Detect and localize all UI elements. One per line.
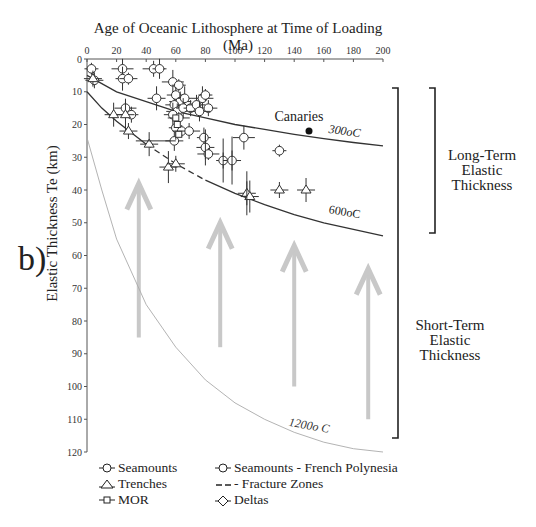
y-tick-label: 30	[72, 152, 82, 163]
axes: 0204060801001201401601802000102030405060…	[67, 45, 391, 458]
canaries-label: Canaries	[275, 109, 324, 124]
isotherm-1200-label: 1200o C	[288, 415, 332, 436]
long-term-label: Long-Term Elastic Thickness	[432, 148, 532, 193]
y-tick-label: 110	[67, 414, 82, 425]
mor-marker	[174, 122, 180, 128]
seamount-marker	[201, 91, 210, 100]
legend-col-1: Seamounts Trenches MOR	[98, 460, 177, 508]
isotherm-600-label: 600oC	[328, 202, 362, 221]
trench-marker	[301, 185, 311, 193]
y-tick-label: 90	[72, 348, 82, 359]
seamount-marker	[87, 65, 96, 74]
seamount-marker	[185, 127, 194, 136]
y-tick-label: 100	[67, 381, 82, 392]
legend-item-deltas: Deltas	[214, 492, 398, 508]
annotations: Canaries300oC600oC1200o C	[275, 109, 363, 436]
circle-marker-icon	[98, 462, 116, 474]
triangle-marker-icon	[98, 478, 116, 490]
seamount-marker	[152, 94, 161, 103]
isotherm-300-label: 300oC	[327, 122, 363, 141]
circle-marker-icon	[214, 462, 232, 474]
seamount-marker	[155, 65, 164, 74]
y-tick-label: 20	[72, 119, 82, 130]
long-term-line1: Long-Term	[432, 148, 532, 163]
seamount-marker	[124, 74, 133, 83]
short-term-bracket	[392, 88, 398, 438]
y-tick-label: 40	[72, 185, 82, 196]
seamount-marker	[195, 107, 204, 116]
legend-item-french-polynesia: Seamounts - French Polynesia	[214, 460, 398, 476]
y-tick-label: 0	[77, 54, 82, 65]
seamount-marker	[275, 146, 284, 155]
legend-item-fracture-zones: - Fracture Zones	[214, 476, 398, 492]
short-term-line1: Short-Term	[400, 318, 500, 333]
legend-label: Trenches	[118, 476, 167, 492]
short-term-line2: Elastic	[400, 333, 500, 348]
short-term-label: Short-Term Elastic Thickness	[400, 318, 500, 363]
mor-marker	[176, 131, 182, 137]
chart-canvas: 0204060801001201401601802000102030405060…	[0, 0, 536, 527]
legend-item-trenches: Trenches	[98, 476, 177, 492]
data-points	[84, 59, 315, 215]
legend-col-2: Seamounts - French Polynesia - Fracture …	[214, 460, 398, 508]
square-marker-icon	[98, 494, 116, 506]
y-tick-label: 80	[72, 316, 82, 327]
y-axis-label: Elastic Thickness Te (km)	[44, 124, 61, 324]
long-term-line3: Thickness	[432, 178, 532, 193]
y-tick-label: 70	[72, 283, 82, 294]
legend-item-mor: MOR	[98, 492, 177, 508]
panel-label: b)	[18, 240, 46, 278]
mor-marker	[173, 115, 179, 121]
y-tick-label: 60	[72, 250, 82, 261]
legend-item-seamounts: Seamounts	[98, 460, 177, 476]
y-tick-label: 10	[72, 86, 82, 97]
trench-marker	[171, 159, 181, 167]
trench-marker	[109, 110, 119, 118]
legend-label: - Fracture Zones	[234, 476, 323, 492]
long-term-line2: Elastic	[432, 163, 532, 178]
seamount-marker	[240, 133, 249, 142]
y-tick-label: 50	[72, 217, 82, 228]
short-to-long-term-arrows	[127, 183, 380, 419]
diamond-marker-icon	[214, 494, 232, 506]
trench-marker	[274, 185, 284, 193]
seamount-marker	[180, 94, 189, 103]
isotherm-1200	[87, 138, 383, 452]
canaries-marker	[306, 128, 313, 135]
thickness-brackets	[392, 88, 435, 438]
legend-label: Deltas	[234, 492, 269, 508]
seamount-marker	[200, 133, 209, 142]
legend-label: MOR	[118, 492, 149, 508]
dash-marker-icon	[214, 478, 232, 490]
y-tick-label: 120	[67, 447, 82, 458]
legend-label: Seamounts - French Polynesia	[234, 460, 398, 476]
legend-label: Seamounts	[118, 460, 177, 476]
short-term-line3: Thickness	[400, 348, 500, 363]
chart-title: Age of Oceanic Lithosphere at Time of Lo…	[88, 20, 388, 54]
